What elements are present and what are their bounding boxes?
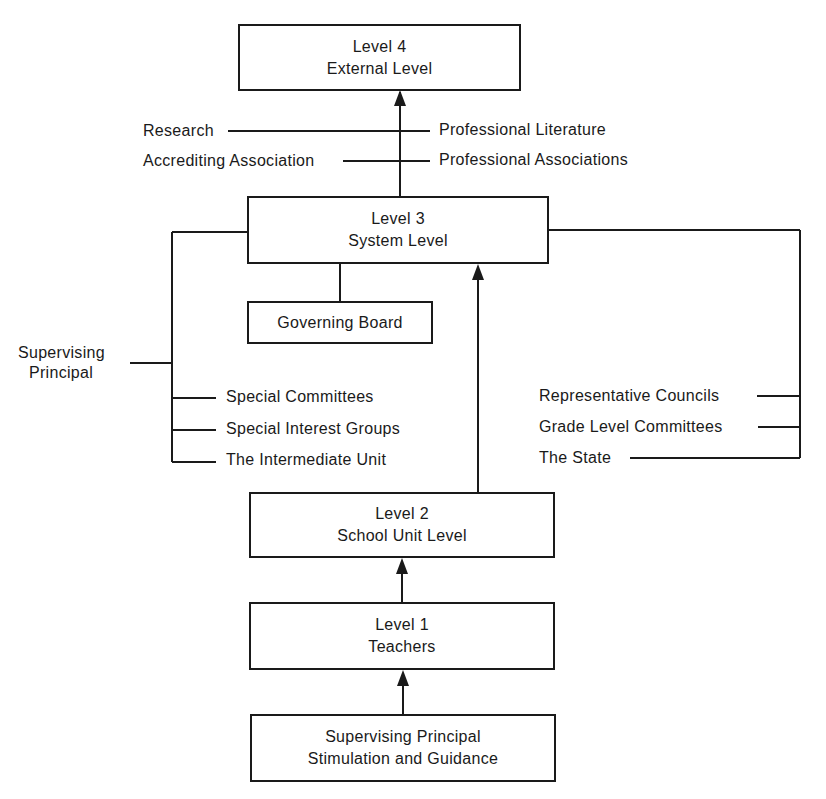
level-4-subtitle: External Level [327,58,433,80]
level-3-box: Level 3 System Level [247,196,549,264]
supervising-principal-side-label: Supervising Principal [18,343,105,383]
principal-guidance-title: Supervising Principal [325,726,481,748]
governing-board-label: Governing Board [277,312,402,334]
level-2-box: Level 2 School Unit Level [249,492,555,558]
special-interest-groups-label: Special Interest Groups [226,419,400,439]
level-1-title: Level 1 [375,614,429,636]
supervising-principal-line2: Principal [18,363,105,383]
level-1-box: Level 1 Teachers [249,602,555,670]
representative-councils-label: Representative Councils [539,386,719,406]
governing-board-box: Governing Board [247,301,433,344]
professional-associations-label: Professional Associations [439,150,628,170]
grade-level-committees-label: Grade Level Committees [539,417,723,437]
level-2-title: Level 2 [375,503,429,525]
level-2-subtitle: School Unit Level [337,525,467,547]
principal-guidance-subtitle: Stimulation and Guidance [308,748,498,770]
the-state-label: The State [539,448,611,468]
intermediate-unit-label: The Intermediate Unit [226,450,386,470]
principal-guidance-box: Supervising Principal Stimulation and Gu… [250,714,556,782]
professional-literature-label: Professional Literature [439,120,606,140]
special-committees-label: Special Committees [226,387,374,407]
level-1-subtitle: Teachers [368,636,435,658]
supervising-principal-line1: Supervising [18,343,105,363]
level-4-title: Level 4 [353,36,407,58]
accrediting-association-label: Accrediting Association [143,151,314,171]
research-label: Research [143,121,214,141]
level-3-title: Level 3 [371,208,425,230]
level-4-box: Level 4 External Level [238,24,521,91]
level-3-subtitle: System Level [348,230,448,252]
